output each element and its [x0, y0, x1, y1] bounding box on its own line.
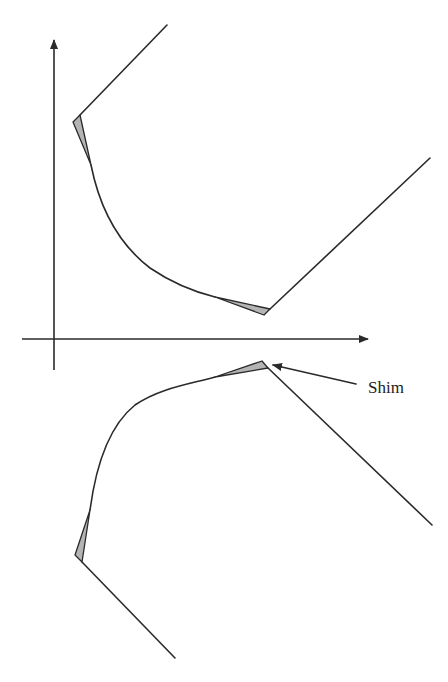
lower-right-shim [215, 361, 268, 377]
lower-left-shim [75, 510, 90, 562]
axes [22, 40, 368, 370]
upper-top-line [80, 25, 167, 115]
upper-right-shim [215, 297, 270, 315]
upper-branch [73, 25, 430, 315]
upper-left-shim [73, 115, 91, 165]
upper-curve [91, 165, 215, 297]
diagram-canvas: Shim [0, 0, 448, 682]
lower-curve [90, 377, 215, 510]
lower-bottom-line [82, 562, 175, 658]
shim-pointer-arrow [273, 365, 356, 384]
upper-right-line [270, 158, 430, 309]
shim-label: Shim [368, 378, 404, 397]
lower-right-line [268, 368, 432, 525]
lower-branch [75, 361, 432, 658]
